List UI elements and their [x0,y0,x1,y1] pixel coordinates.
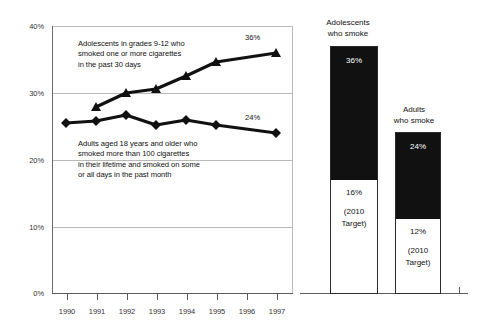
annotation-adolescents-line2: smoked one or more cigarettes [78,49,181,59]
bar-adults-target-label: 12% [396,226,440,238]
annotation-adults-line2: smoked more than 100 cigarettes [78,149,189,159]
bar-caption-adults-line1: Adults [380,105,448,116]
bar-adolescents[interactable]: 36% 16% (2010 Target) [330,46,378,294]
bar-adolescents-target-label: 16% [331,187,377,199]
bar-caption-adults: Adults who smoke [380,105,448,126]
bar-adults[interactable]: 24% 12% (2010 Target) [395,132,441,294]
bar-baseline [300,293,468,294]
bar-caption-adults-line2: who smoke [380,116,448,127]
annotation-adults-line4: or all days in the past month [78,170,172,180]
bar-panel-end-tick [459,287,460,294]
bar-adults-current-label: 24% [396,142,440,151]
bar-caption-adolescents-line2: who smoke [314,29,382,40]
series-end-label-adolescents: 36% [245,33,260,42]
annotation-adolescents-line1: Adolescents in grades 9-12 who [78,39,185,49]
bar-adolescents-current-label: 36% [331,56,377,65]
annotation-adults-line3: in their lifetime and smoked on some [78,160,200,170]
bar-adolescents-current-segment [331,47,377,180]
bar-adolescents-target-note-line1: (2010 [331,206,377,218]
series-end-label-adults: 24% [245,113,260,122]
annotation-adolescents-line3: in the past 30 days [78,60,141,70]
annotation-adults-line1: Adults aged 18 years and older who [78,139,197,149]
line-chart-panel: 40% 30% 20% 10% 0% 1990 1991 1992 1993 1… [0,0,300,330]
bar-adolescents-target-note-line2: Target) [331,218,377,230]
bar-chart-panel: Adolescents who smoke 36% 16% (2010 Targ… [300,0,487,330]
bar-adults-target-note-line1: (2010 [396,245,440,257]
bar-caption-adolescents-line1: Adolescents [314,18,382,29]
bar-adults-target-note-line2: Target) [396,257,440,269]
chart-root: 40% 30% 20% 10% 0% 1990 1991 1992 1993 1… [0,0,487,330]
bar-caption-adolescents: Adolescents who smoke [314,18,382,39]
